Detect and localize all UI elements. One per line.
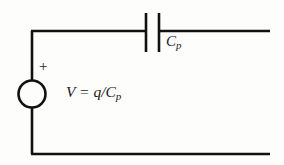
- source-equation-label: V = q/Cp: [66, 84, 121, 102]
- source-label-variable: V: [66, 83, 75, 100]
- source-label-numerator: q: [93, 83, 101, 100]
- circuit-schematic-svg: [0, 0, 284, 165]
- circuit-diagram: + Cp V = q/Cp: [0, 0, 284, 165]
- capacitor-label-subscript: p: [176, 39, 181, 51]
- capacitor-label-base: C: [166, 33, 176, 49]
- source-label-denominator-subscript: p: [116, 90, 122, 102]
- capacitor-label: Cp: [166, 34, 181, 51]
- source-label-denominator: C: [105, 83, 115, 100]
- polarity-plus-marker: +: [39, 59, 47, 74]
- source-label-equals: =: [75, 83, 93, 100]
- voltage-source-symbol: [19, 81, 46, 108]
